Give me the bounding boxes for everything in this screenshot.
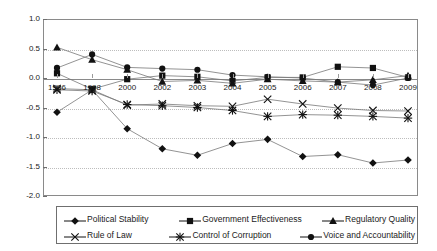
diamond-marker-icon xyxy=(194,151,202,159)
x-tick-label: 2005 xyxy=(259,84,277,92)
diamond-marker-icon xyxy=(71,217,79,225)
circle-marker-icon xyxy=(159,65,165,71)
y-tick-mark xyxy=(43,167,47,168)
triangle-marker-icon xyxy=(53,43,61,50)
x-tick-label: 2003 xyxy=(188,84,206,92)
series-line xyxy=(57,90,408,163)
legend-item-control-of-corruption[interactable]: Control of Corruption xyxy=(168,227,299,243)
x-tick-mark xyxy=(197,74,198,78)
diamond-marker-icon xyxy=(334,151,342,159)
x-tick-label: 2000 xyxy=(118,84,136,92)
square-marker-icon xyxy=(335,64,341,70)
diamond-marker-icon xyxy=(264,136,272,144)
x-tick-mark xyxy=(92,74,93,78)
legend-item-political-stability[interactable]: Political Stability xyxy=(63,211,178,227)
diamond-marker-icon xyxy=(404,156,412,164)
legend-item-rule-of-law[interactable]: Rule of Law xyxy=(63,227,168,243)
asterisk-marker-icon xyxy=(369,112,377,120)
asterisk-marker-icon xyxy=(158,102,166,110)
x-tick-label: 2002 xyxy=(153,84,171,92)
series-layer xyxy=(43,19,418,196)
asterisk-marker-icon xyxy=(123,100,131,108)
line-chart: 1.00.50.0-0.5-1.0-1.5-2.0 19961998200020… xyxy=(0,0,437,251)
legend-item-government-effectiveness[interactable]: Government Effectiveness xyxy=(178,211,321,227)
asterisk-marker-icon xyxy=(193,103,201,111)
triangle-marker-icon xyxy=(321,213,345,225)
x-tick-mark xyxy=(162,74,163,78)
y-tick-label: -1.0 xyxy=(8,133,40,141)
x-tick-mark xyxy=(338,74,339,78)
asterisk-marker-icon xyxy=(228,106,236,114)
diamond-marker-icon xyxy=(229,140,237,148)
diamond-marker-icon xyxy=(369,159,377,167)
square-marker-icon xyxy=(370,65,376,71)
legend: Political Stability Government Effective… xyxy=(56,206,418,244)
y-tick-label: 1.0 xyxy=(8,15,40,23)
x-tick-label: 1996 xyxy=(48,84,66,92)
square-marker-icon xyxy=(178,213,202,225)
y-tick-mark xyxy=(43,78,47,79)
y-tick-label: -0.5 xyxy=(8,104,40,112)
y-tick-mark xyxy=(43,108,47,109)
circle-marker-icon xyxy=(299,229,323,241)
diamond-marker-icon xyxy=(159,145,167,153)
diamond-marker-icon xyxy=(299,153,307,161)
circle-marker-icon xyxy=(54,65,60,71)
asterisk-marker-icon xyxy=(263,112,271,120)
legend-item-voice-and-accountability[interactable]: Voice and Accountability xyxy=(299,227,415,243)
diamond-marker-icon xyxy=(53,108,61,116)
circle-marker-icon xyxy=(194,67,200,73)
square-marker-icon xyxy=(187,218,193,224)
legend-label: Government Effectiveness xyxy=(202,215,302,224)
circle-marker-icon xyxy=(124,64,130,70)
legend-label: Control of Corruption xyxy=(192,231,271,240)
y-tick-mark xyxy=(43,196,47,197)
y-tick-label: 0.5 xyxy=(8,45,40,53)
x-tick-mark xyxy=(57,74,58,78)
legend-row: Political Stability Government Effective… xyxy=(63,211,415,227)
circle-marker-icon xyxy=(89,51,95,57)
y-tick-label: -1.5 xyxy=(8,163,40,171)
x-tick-mark xyxy=(127,74,128,78)
legend-item-regulatory-quality[interactable]: Regulatory Quality xyxy=(321,211,415,227)
asterisk-marker-icon xyxy=(168,229,192,241)
x-tick-label: 2007 xyxy=(329,84,347,92)
y-tick-mark xyxy=(43,137,47,138)
series-political-stability xyxy=(53,86,412,167)
asterisk-marker-icon xyxy=(404,114,412,122)
x-tick-mark xyxy=(408,74,409,78)
x-tick-mark xyxy=(233,74,234,78)
x-marker-icon xyxy=(63,229,87,241)
x-tick-mark xyxy=(373,74,374,78)
y-tick-label: 0.0 xyxy=(8,74,40,82)
y-tick-mark xyxy=(43,19,47,20)
asterisk-marker-icon xyxy=(176,233,184,241)
y-tick-mark xyxy=(43,49,47,50)
y-axis: 1.00.50.0-0.5-1.0-1.5-2.0 xyxy=(0,19,40,196)
x-tick-label: 2009 xyxy=(399,84,417,92)
asterisk-marker-icon xyxy=(299,110,307,118)
legend-label: Voice and Accountability xyxy=(323,231,415,240)
asterisk-marker-icon xyxy=(334,111,342,119)
y-tick-label: -2.0 xyxy=(8,192,40,200)
x-tick-label: 2004 xyxy=(224,84,242,92)
x-tick-label: 2006 xyxy=(294,84,312,92)
series-regulatory-quality xyxy=(53,43,412,86)
circle-marker-icon xyxy=(308,234,314,240)
legend-label: Rule of Law xyxy=(87,231,132,240)
diamond-marker-icon xyxy=(63,213,87,225)
legend-label: Political Stability xyxy=(87,215,148,224)
x-tick-mark xyxy=(268,74,269,78)
x-tick-label: 2008 xyxy=(364,84,382,92)
x-tick-mark xyxy=(303,74,304,78)
x-tick-label: 1998 xyxy=(83,84,101,92)
legend-label: Regulatory Quality xyxy=(345,215,415,224)
legend-row: Rule of Law Control of Corruption Voice … xyxy=(63,227,415,243)
